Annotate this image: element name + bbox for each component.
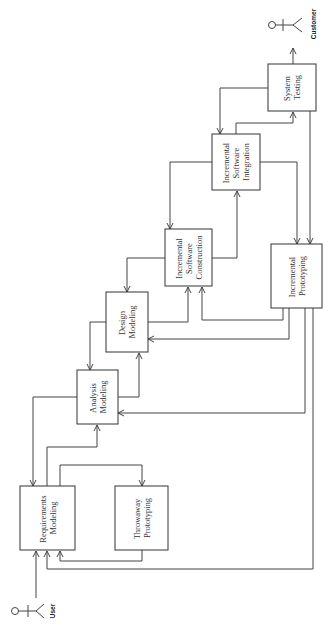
requirements-to-throwaway-line bbox=[60, 465, 142, 486]
process-flow-diagram: Requirements Modeling Throwaway Prototyp… bbox=[0, 0, 331, 626]
customer-actor-icon bbox=[269, 18, 303, 32]
customer-actor-label: Customer bbox=[310, 8, 317, 39]
testing-to-integration-line bbox=[220, 88, 268, 134]
integration-label-line3: Integration bbox=[241, 143, 251, 181]
construction-label-line1: Incremental bbox=[174, 238, 184, 279]
integration-to-construction-line bbox=[170, 162, 212, 229]
requirements-label-line2: Modeling bbox=[48, 501, 58, 535]
design-to-analysis-line bbox=[90, 322, 106, 370]
integration-label-line2: Software bbox=[231, 147, 241, 178]
design-label-line2: Modeling bbox=[127, 305, 137, 339]
construction-to-integration-line bbox=[212, 191, 237, 258]
analysis-label-line1: Analysis bbox=[88, 383, 98, 413]
integration-label-line1: Incremental bbox=[221, 142, 231, 183]
construction-label-line3: Construction bbox=[194, 235, 204, 280]
throwaway-to-requirements-line bbox=[60, 550, 142, 561]
user-actor-label: User bbox=[49, 603, 56, 618]
box-design-modeling: Design Modeling bbox=[106, 292, 148, 352]
box-incremental-software-construction: Incremental Software Construction bbox=[165, 229, 212, 286]
box-system-testing: System Testing bbox=[268, 64, 316, 111]
testing-label-line1: System bbox=[282, 76, 292, 101]
svg-text:Incremental Software: Incremental Software Integration bbox=[221, 141, 251, 184]
box-throwaway-prototyping: Throwaway Prototyping bbox=[115, 486, 168, 550]
requirements-to-analysis-line bbox=[47, 425, 97, 486]
svg-text:Throwaway Prototyping: Throwaway Prototyping bbox=[132, 497, 152, 540]
svg-text:Incremental Prototyping: Incremental Prototyping bbox=[287, 255, 307, 298]
analysis-label-line2: Modeling bbox=[98, 380, 108, 414]
integration-to-prototyping-line bbox=[260, 162, 297, 244]
prototyping-label-line2: Prototyping bbox=[297, 255, 307, 296]
prototyping-to-design-line bbox=[148, 308, 289, 339]
integration-to-testing-line bbox=[236, 112, 293, 134]
prototyping-label-line1: Incremental bbox=[287, 256, 297, 297]
design-to-construction-line bbox=[148, 287, 188, 322]
analysis-to-requirements-line bbox=[33, 397, 77, 486]
svg-text:System Testing: System Testing bbox=[282, 74, 302, 101]
prototyping-to-requirements-line bbox=[47, 308, 313, 569]
svg-text:Analysis Modeling: Analysis Modeling bbox=[88, 380, 108, 414]
box-incremental-prototyping: Incremental Prototyping bbox=[271, 244, 322, 308]
throwaway-label-line1: Throwaway bbox=[132, 498, 142, 539]
throwaway-label-line2: Prototyping bbox=[142, 497, 152, 538]
construction-to-design-line bbox=[127, 258, 165, 292]
svg-text:Design Modeling: Design Modeling bbox=[117, 305, 137, 339]
box-requirements-modeling: Requirements Modeling bbox=[20, 486, 75, 550]
svg-text:Incremental Software: Incremental Software Construction bbox=[174, 235, 204, 280]
testing-label-line2: Testing bbox=[292, 74, 302, 100]
user-actor-icon bbox=[12, 604, 45, 618]
construction-label-line2: Software bbox=[184, 243, 194, 274]
box-incremental-software-integration: Incremental Software Integration bbox=[212, 134, 260, 190]
requirements-label-line1: Requirements bbox=[38, 495, 48, 542]
analysis-to-design-line bbox=[118, 353, 139, 397]
design-label-line1: Design bbox=[117, 310, 127, 335]
box-analysis-modeling: Analysis Modeling bbox=[77, 370, 118, 424]
